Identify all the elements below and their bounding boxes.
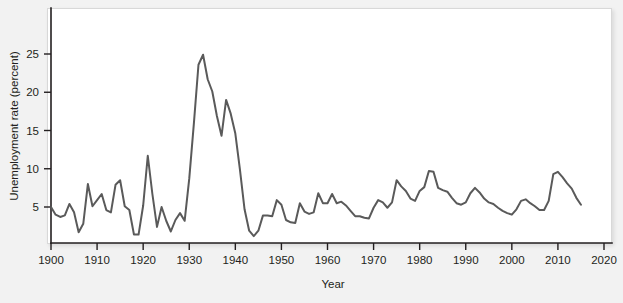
- x-tick-label: 2020: [591, 254, 617, 266]
- x-tick-label: 1960: [315, 254, 341, 266]
- axes: [51, 8, 612, 243]
- x-axis-tick-labels: 1900191019201930194019501960197019801990…: [38, 254, 617, 266]
- y-axis-ticks: [44, 54, 51, 207]
- x-tick-label: 1930: [176, 254, 202, 266]
- y-axis-title: Unemployment rate (percent): [8, 51, 20, 201]
- x-tick-label: 1970: [361, 254, 387, 266]
- x-tick-label: 1900: [38, 254, 64, 266]
- data-line-unemployment-rate: [51, 55, 581, 236]
- x-tick-label: 1990: [453, 254, 479, 266]
- x-tick-label: 1950: [269, 254, 295, 266]
- x-tick-label: 2000: [499, 254, 525, 266]
- x-tick-label: 2010: [545, 254, 571, 266]
- data-series-group: [51, 55, 581, 236]
- y-tick-label: 25: [26, 48, 39, 60]
- y-tick-label: 5: [33, 201, 39, 213]
- chart-page: 1900191019201930194019501960197019801990…: [0, 0, 623, 303]
- y-axis-tick-labels: 510152025: [26, 48, 39, 213]
- x-tick-label: 1920: [130, 254, 156, 266]
- x-axis-title: Year: [321, 278, 344, 290]
- x-tick-label: 1910: [84, 254, 110, 266]
- y-tick-label: 20: [26, 86, 39, 98]
- x-axis-ticks: [51, 243, 604, 250]
- y-tick-label: 15: [26, 125, 39, 137]
- y-tick-label: 10: [26, 163, 39, 175]
- x-tick-label: 1940: [223, 254, 249, 266]
- x-tick-label: 1980: [407, 254, 433, 266]
- unemployment-rate-line-chart: 1900191019201930194019501960197019801990…: [0, 0, 623, 303]
